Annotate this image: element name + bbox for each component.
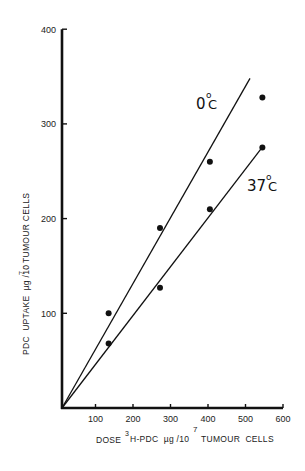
x-tick-label: 600: [275, 414, 290, 424]
y-axis-label-suffix: TUMOUR CELLS: [21, 193, 31, 263]
y-axis-label-main: PDC UPTAKE µg /10: [21, 265, 31, 355]
ticks: 100200300400100200300400500600: [41, 25, 291, 424]
data-point: [207, 206, 213, 212]
x-axis-label-prefix: DOSE: [96, 435, 121, 445]
series-label-37c-unit: C: [268, 179, 277, 194]
fit-lines: [62, 78, 264, 408]
x-axis-label-main: H-PDC µg /10: [130, 434, 189, 444]
data-point: [207, 159, 213, 165]
data-point: [157, 225, 163, 231]
y-tick-label: 100: [41, 309, 56, 319]
x-tick-label: 500: [238, 414, 253, 424]
data-points: [106, 94, 266, 346]
series-label-37c: 37 o C: [247, 172, 277, 195]
data-point: [106, 310, 112, 316]
y-tick-label: 200: [41, 214, 56, 224]
x-tick-label: 300: [163, 414, 178, 424]
x-tick-label: 200: [125, 414, 140, 424]
x-axis-label-sup3: 3: [125, 430, 129, 437]
x-axis-label-sup7: 7: [193, 425, 198, 434]
series-label-0c-main: 0: [196, 95, 206, 113]
fit-line-0c: [62, 78, 250, 408]
x-tick-label: 100: [88, 414, 103, 424]
data-point: [259, 145, 265, 151]
y-tick-label: 300: [41, 119, 56, 129]
series-label-37c-main: 37: [247, 177, 266, 195]
x-axis-label-suffix: TUMOUR CELLS: [201, 434, 274, 444]
y-tick-label: 400: [41, 25, 56, 35]
y-axis-label: PDC UPTAKE µg /10 7 TUMOUR CELLS: [18, 193, 31, 355]
chart: 100200300400100200300400500600 0 o C 37 …: [0, 0, 305, 471]
series-label-0c: 0 o C: [196, 90, 217, 113]
data-point: [259, 94, 265, 100]
y-axis-label-sup: 7: [18, 271, 25, 275]
x-axis-label: DOSE 3 H-PDC µg /10 7 TUMOUR CELLS: [96, 425, 274, 445]
series-label-0c-unit: C: [208, 97, 217, 112]
data-point: [157, 285, 163, 291]
data-point: [106, 341, 112, 347]
fit-line-37c: [62, 146, 264, 408]
x-tick-label: 400: [200, 414, 215, 424]
